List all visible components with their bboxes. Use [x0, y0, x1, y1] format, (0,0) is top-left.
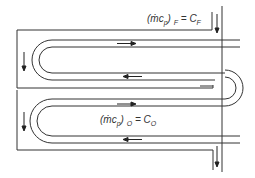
label-sub: O — [151, 120, 156, 127]
label-text: (ṁc — [100, 114, 117, 125]
fluid-f-capacity-label: (ṁcp) F = CF — [147, 13, 201, 26]
label-text: (ṁc — [147, 13, 164, 24]
label-text: = C — [181, 13, 197, 24]
upper-tube-outer — [32, 40, 240, 80]
label-text: = C — [135, 114, 151, 125]
label-text: ) — [168, 13, 171, 24]
right-bend-inner — [225, 77, 236, 99]
heat-exchanger-diagram — [0, 0, 255, 178]
label-sub: F — [197, 19, 201, 26]
upper-tube-inner — [39, 47, 240, 73]
flow-arrows — [22, 14, 219, 167]
label-text: ) — [121, 114, 124, 125]
fluid-o-capacity-label: (ṁcp) O = CO — [100, 114, 156, 127]
lower-shell — [17, 90, 213, 170]
label-sub: O — [127, 120, 132, 127]
label-sub: F — [174, 19, 178, 26]
right-bend-outer — [225, 70, 243, 106]
